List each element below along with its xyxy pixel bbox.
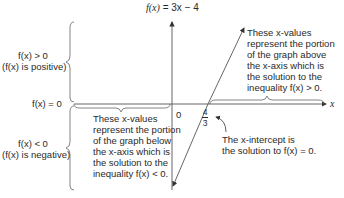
annotation-line: represent the portion <box>247 38 335 49</box>
annotation-line: of the graph below <box>93 135 181 146</box>
x-axis-label: x <box>330 98 334 109</box>
annotation-line: represent the portion <box>93 124 181 135</box>
function-label: f(x) = 3x − 4 <box>146 2 199 13</box>
brace-positive-x <box>210 96 324 104</box>
brace-negative-y <box>66 106 74 190</box>
annotation-below: These x-values represent the portion of … <box>93 113 181 179</box>
negative-condition: f(x) < 0 <box>2 138 64 149</box>
annotation-line: the solution to f(x) = 0. <box>222 145 316 156</box>
x-intercept-denominator: 3 <box>203 118 208 128</box>
annotation-line: inequality f(x) < 0. <box>93 168 181 179</box>
positive-label: f(x) > 0 (f(x) is positive) <box>2 50 64 72</box>
function-expression: = 3x − 4 <box>163 2 199 13</box>
annotation-line: the x-axis which is <box>93 146 181 157</box>
annotation-intercept: The x-intercept is the solution to f(x) … <box>222 134 316 156</box>
annotation-line: the solution to the <box>93 157 181 168</box>
annotation-line: The x-intercept is <box>222 134 316 145</box>
x-intercept-label: 4 3 <box>200 108 210 127</box>
annotation-line: the x-axis which is <box>247 60 335 71</box>
function-name: f(x) <box>146 2 160 13</box>
positive-condition: f(x) > 0 <box>2 50 64 61</box>
annotation-line: These x-values <box>247 27 335 38</box>
annotation-line: These x-values <box>93 113 181 124</box>
negative-label: f(x) < 0 (f(x) is negative) <box>2 138 64 160</box>
x-intercept-numerator: 4 <box>203 107 208 117</box>
annotation-line: inequality f(x) > 0. <box>247 82 335 93</box>
positive-description: (f(x) is positive) <box>2 61 64 72</box>
brace-positive-y <box>66 22 74 102</box>
zero-label: f(x) = 0 <box>32 98 62 109</box>
intercept-pointer-arrow <box>216 117 226 132</box>
brace-negative-x <box>74 104 170 112</box>
annotation-line: the solution to the <box>247 71 335 82</box>
annotation-above: These x-values represent the portion of … <box>247 27 335 93</box>
annotation-line: of the graph above <box>247 49 335 60</box>
negative-description: (f(x) is negative) <box>2 149 64 160</box>
function-line <box>208 28 244 104</box>
